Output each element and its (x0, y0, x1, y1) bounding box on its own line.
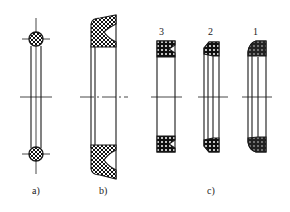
panel-label-c: c) (207, 186, 215, 196)
lip-seal-2 (198, 42, 228, 152)
part-number-1: 1 (253, 27, 258, 37)
o-ring-seal (20, 18, 52, 174)
panel-label-b: b) (99, 186, 107, 196)
part-number-3: 3 (159, 27, 164, 37)
lip-seal-1 (242, 41, 272, 152)
panel-label-a: a) (32, 186, 40, 196)
lip-seal-3 (151, 41, 182, 152)
lip-seal (80, 15, 128, 179)
seal-diagram (0, 0, 290, 212)
part-number-2: 2 (208, 27, 213, 37)
